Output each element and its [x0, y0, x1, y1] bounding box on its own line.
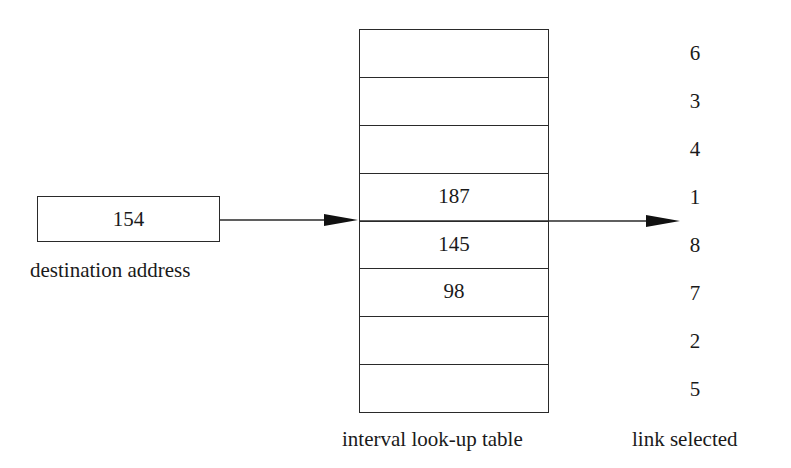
arrows-layer [0, 0, 791, 468]
input-arrow-icon [220, 214, 358, 226]
output-arrow-icon [359, 215, 680, 227]
